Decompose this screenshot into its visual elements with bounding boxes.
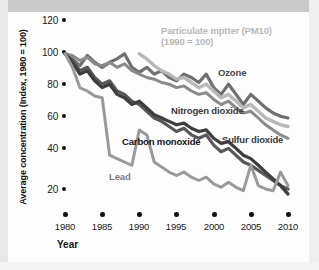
x-tick-dot-1980: [63, 212, 68, 217]
series-label-carbon-monoxide: Carbon monoxide: [122, 137, 201, 148]
x-tick-dot-1985: [100, 212, 105, 217]
x-tick-dot-2010: [286, 212, 291, 217]
chart-figure: Average concentration (Index, 1980 = 100…: [0, 0, 319, 270]
x-tick-label-1995: 1995: [159, 221, 193, 232]
series-label-so2-text: Sulfur dioxide: [222, 134, 283, 145]
x-tick-dot-2000: [212, 212, 217, 217]
series-line-carbon-monoxide: [65, 54, 288, 189]
series-label-pm10-note: (1990 = 100): [161, 36, 213, 47]
x-tick-label-1985: 1985: [85, 221, 119, 232]
series-label-sulfur-dioxide: Sulfur dioxide: [222, 135, 283, 146]
series-label-lead: Lead: [109, 172, 131, 183]
x-tick-label-2010: 2010: [271, 221, 305, 232]
series-line-lead: [65, 54, 288, 191]
x-tick-label-2000: 2000: [197, 221, 231, 232]
series-label-ozone: Ozone: [218, 68, 246, 79]
x-tick-label-2005: 2005: [234, 221, 268, 232]
x-tick-label-1980: 1980: [48, 221, 82, 232]
x-tick-dot-1995: [174, 212, 179, 217]
series-label-co-text: Carbon monoxide: [122, 136, 201, 147]
x-tick-dot-1990: [137, 212, 142, 217]
series-label-pm10-text: Particulate mptter (PM10): [161, 25, 272, 36]
x-tick-label-1990: 1990: [122, 221, 156, 232]
series-label-no2-text: Nitrogen dioxide: [171, 105, 244, 116]
series-label-nitrogen-dioxide: Nitrogen dioxide: [171, 106, 244, 117]
x-axis-title: Year: [57, 239, 78, 250]
series-label-particulate-matter: Particulate mptter (PM10) (1990 = 100): [161, 26, 272, 47]
plot-area: Average concentration (Index, 1980 = 100…: [0, 0, 319, 270]
x-tick-dot-2005: [249, 212, 254, 217]
